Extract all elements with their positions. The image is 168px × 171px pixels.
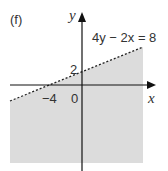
y-axis-arrow-icon (78, 12, 86, 22)
inequality-graph: (f) y x 4y − 2x = 8 2 −4 0 (0, 0, 168, 171)
part-label: (f) (10, 12, 22, 27)
x-intercept-label: −4 (42, 91, 57, 106)
x-axis-arrow-icon (147, 81, 156, 89)
y-axis-label: y (67, 7, 76, 23)
y-intercept-label: 2 (70, 62, 77, 77)
origin-label: 0 (71, 91, 78, 106)
equation-label: 4y − 2x = 8 (92, 30, 156, 45)
x-axis-label: x (147, 90, 155, 106)
